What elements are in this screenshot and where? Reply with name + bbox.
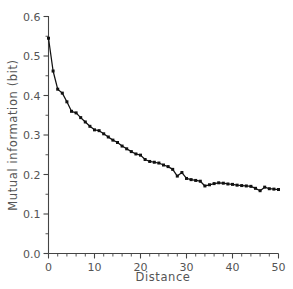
data-point-marker [162, 164, 165, 167]
data-point-marker [134, 152, 137, 155]
data-point-marker [75, 111, 78, 114]
data-point-marker [203, 184, 206, 187]
data-point-marker [65, 100, 68, 103]
data-point-marker [254, 187, 257, 190]
data-point-marker [208, 183, 211, 186]
data-point-marker [245, 184, 248, 187]
y-tick-label: 0.3 [23, 129, 41, 142]
data-point-marker [88, 125, 91, 128]
data-point-marker [194, 179, 197, 182]
data-point-marker [153, 161, 156, 164]
y-tick-label: 0.4 [23, 90, 41, 103]
data-point-marker [61, 92, 64, 95]
x-tick-label: 40 [226, 261, 240, 274]
data-point-marker [125, 147, 128, 150]
data-point-marker [79, 116, 82, 119]
data-point-marker [52, 70, 55, 73]
data-point-marker [231, 183, 234, 186]
y-axis-ticks [44, 17, 49, 254]
data-point-marker [98, 129, 101, 132]
x-tick-label: 10 [88, 261, 102, 274]
data-point-marker [213, 182, 216, 185]
y-tick-label: 0.6 [23, 11, 41, 24]
y-tick-label: 0.5 [23, 50, 41, 63]
mutual-information-line-chart: 0.00.10.20.30.40.50.6 01020304050 Distan… [0, 0, 293, 289]
y-tick-label: 0.0 [23, 248, 41, 261]
data-point-marker [171, 168, 174, 171]
data-point-marker [148, 160, 151, 163]
data-series-markers [47, 37, 280, 192]
x-axis-ticks [49, 254, 279, 259]
data-point-marker [111, 139, 114, 142]
data-point-marker [167, 165, 170, 168]
data-point-marker [277, 188, 280, 191]
data-point-marker [84, 120, 87, 123]
y-tick-label: 0.1 [23, 208, 41, 221]
data-point-marker [185, 177, 188, 180]
data-point-marker [217, 181, 220, 184]
data-point-marker [70, 110, 73, 113]
data-point-marker [249, 185, 252, 188]
data-point-marker [93, 128, 96, 131]
data-point-marker [102, 132, 105, 135]
y-axis-title: Mutual information (bit) [6, 59, 20, 210]
data-point-marker [107, 135, 110, 138]
data-point-marker [226, 182, 229, 185]
data-point-marker [190, 178, 193, 181]
x-axis-title: Distance [135, 270, 190, 284]
axis-spines [49, 16, 279, 254]
data-point-marker [121, 145, 124, 148]
x-tick-label: 50 [272, 261, 286, 274]
y-axis-tick-labels: 0.00.10.20.30.40.50.6 [23, 11, 41, 261]
data-point-marker [116, 141, 119, 144]
data-point-marker [259, 189, 262, 192]
data-point-marker [56, 88, 59, 91]
data-point-marker [236, 184, 239, 187]
data-point-marker [176, 175, 179, 178]
data-point-marker [180, 171, 183, 174]
data-point-marker [144, 158, 147, 161]
data-point-marker [268, 187, 271, 190]
data-point-marker [139, 154, 142, 157]
y-tick-label: 0.2 [23, 169, 41, 182]
x-tick-label: 0 [45, 261, 52, 274]
data-point-marker [263, 186, 266, 189]
data-point-marker [130, 150, 133, 153]
data-point-marker [240, 184, 243, 187]
data-point-marker [222, 182, 225, 185]
data-point-marker [157, 162, 160, 165]
chart-figure: 0.00.10.20.30.40.50.6 01020304050 Distan… [0, 0, 293, 289]
data-point-marker [199, 180, 202, 183]
data-point-marker [47, 37, 50, 40]
data-series-line [49, 38, 279, 190]
data-point-marker [272, 188, 275, 191]
